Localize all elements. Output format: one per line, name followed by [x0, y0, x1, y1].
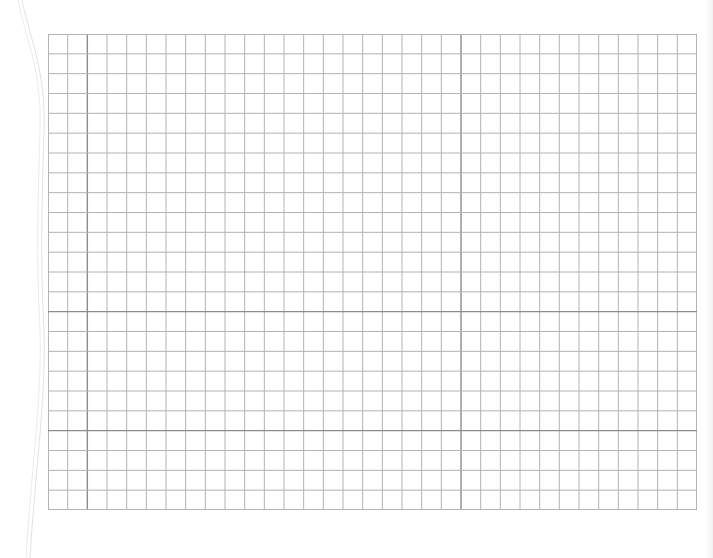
page-shadow	[705, 0, 713, 558]
graph-paper-grid	[48, 34, 697, 510]
